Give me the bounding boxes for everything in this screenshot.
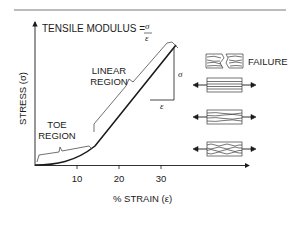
formula-label: TENSILE MODULUS = (42, 23, 145, 34)
specimen-crimped (193, 142, 256, 156)
linear-region-label: LINEAR REGION (84, 65, 134, 87)
slope-sigma-label: σ (178, 69, 182, 80)
formula-numerator: σ (145, 21, 149, 32)
y-axis-label: STRESS (σ) (17, 69, 28, 129)
toe-region-line2: REGION (32, 130, 82, 141)
x-tick-label-20: 20 (109, 173, 129, 184)
formula-denominator: ε (145, 33, 149, 44)
failure-icon (206, 54, 243, 68)
failure-label: FAILURE (248, 56, 288, 67)
x-tick-label-30: 30 (151, 173, 171, 184)
slope-epsilon-label: ε (160, 101, 164, 112)
toe-region-label: TOE REGION (32, 119, 82, 141)
linear-region-line1: LINEAR (84, 65, 134, 76)
specimen-partially-straightened (193, 110, 256, 124)
toe-region-line1: TOE (32, 119, 82, 130)
x-axis-label: % STRAIN (ε) (113, 193, 172, 204)
linear-region-line2: REGION (84, 76, 134, 87)
x-tick-label-10: 10 (67, 173, 87, 184)
linear-region-bracket (94, 42, 178, 132)
specimen-linear (193, 78, 256, 92)
stress-strain-curve (35, 45, 176, 165)
